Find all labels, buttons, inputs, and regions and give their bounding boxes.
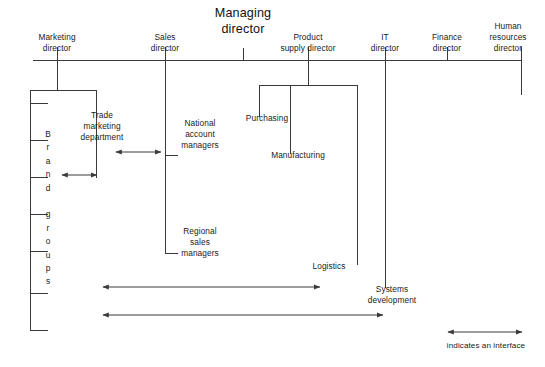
brand-groups-letter: a — [45, 155, 51, 168]
node-manufacturing: Manufacturing — [271, 150, 325, 161]
node-finance-director: Financedirector — [432, 32, 462, 54]
brand-groups-letter: o — [45, 235, 51, 248]
node-logistics: Logistics — [312, 261, 345, 272]
node-human-resources-director: Humanresourcesdirector — [489, 21, 526, 55]
brand-groups-letter: n — [45, 168, 51, 181]
brand-groups-letter: u — [45, 249, 51, 262]
node-product-supply-director: Productsupply director — [280, 32, 335, 54]
node-national-account-managers: Nationalaccountmanagers — [181, 118, 219, 152]
brand-groups-letter: r — [45, 222, 51, 235]
brand-groups-letter: g — [45, 208, 51, 221]
interface-arrows — [62, 152, 522, 332]
node-systems-development: Systemsdevelopment — [368, 284, 416, 306]
brand-groups-letter: s — [45, 275, 51, 288]
legend-label: indicates an interface — [447, 340, 525, 351]
brand-groups-letter: d — [45, 182, 51, 195]
brand-groups-letter: p — [45, 262, 51, 275]
node-marketing-director: Marketingdirector — [38, 32, 75, 54]
node-managing-director: Managingdirector — [215, 6, 271, 37]
brand-groups-letter: r — [45, 141, 51, 154]
organization-chart: Managingdirector Marketingdirector Sales… — [0, 0, 545, 367]
chart-lines-layer — [0, 0, 545, 367]
node-sales-director: Salesdirector — [151, 32, 179, 54]
node-regional-sales-managers: Regionalsalesmanagers — [181, 226, 219, 260]
brand-groups-letter: B — [45, 128, 51, 141]
node-brand-groups: B r a n d g r o u p s — [45, 128, 51, 289]
node-purchasing: Purchasing — [246, 113, 288, 124]
brand-groups-letter-gap — [45, 195, 51, 208]
node-it-director: ITdirector — [371, 32, 399, 54]
node-trade-marketing-department: Trademarketingdepartment — [81, 110, 124, 144]
